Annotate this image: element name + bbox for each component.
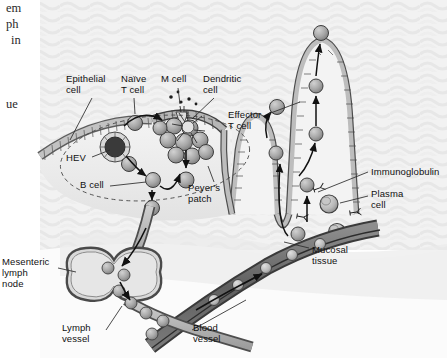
label-dendritic-cell: Dendritic cell <box>203 73 241 95</box>
label-mucosal-tissue: Mucosal tissue <box>312 244 348 266</box>
label-peyers-patch: Peyer's patch <box>188 182 220 204</box>
label-mesenteric-lymph-node: Mesenteric lymph node <box>2 256 49 289</box>
diagram-svg <box>0 0 447 358</box>
page-fragment-4: ue <box>6 98 18 111</box>
label-lymph-vessel: Lymph vessel <box>62 322 91 344</box>
label-immunoglobulin: Immunoglobulin <box>371 166 439 177</box>
page-fragment-2: ph <box>6 18 19 31</box>
page-fragment-1: em <box>6 2 21 15</box>
label-hev: HEV <box>66 152 86 163</box>
label-naive-t-cell: Naïve T cell <box>121 73 146 95</box>
label-plasma-cell: Plasma cell <box>371 188 403 210</box>
label-epithelial-cell: Epithelial cell <box>66 73 106 95</box>
figure-canvas: em ph in ue Epithelial cell Naïve T cell… <box>0 0 447 358</box>
label-m-cell: M cell <box>161 73 186 84</box>
label-blood-vessel: Blood vessel <box>193 322 221 344</box>
b-cell-body <box>146 173 161 188</box>
label-b-cell: B cell <box>80 179 104 190</box>
label-effector-t-cell: Effector T cell <box>228 109 261 131</box>
page-fragment-3: in <box>11 34 21 47</box>
